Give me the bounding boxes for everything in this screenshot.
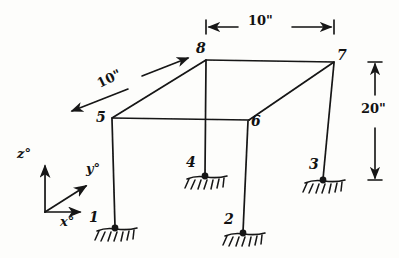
dimension-height bbox=[368, 62, 382, 180]
support-node-4 bbox=[185, 173, 227, 189]
node-label-6: 6 bbox=[251, 114, 261, 128]
member-column-7-3 bbox=[323, 63, 334, 179]
figure-canvas: 1 2 3 4 5 6 7 8 10" 10" 20" z° y° x° bbox=[0, 0, 399, 258]
axis-label-z: z° bbox=[17, 147, 31, 160]
member-roof-6-7 bbox=[249, 62, 334, 120]
node-label-7: 7 bbox=[337, 48, 347, 62]
support-node-3 bbox=[303, 177, 345, 193]
node-label-3: 3 bbox=[309, 157, 319, 171]
support-node-2 bbox=[223, 230, 265, 246]
node-label-5: 5 bbox=[96, 110, 106, 124]
coordinate-axes bbox=[45, 166, 86, 212]
axis-line-y bbox=[45, 186, 86, 212]
dimension-diagonal-depth bbox=[72, 58, 188, 111]
dimension-label-height: 20" bbox=[361, 102, 386, 115]
node-label-4: 4 bbox=[186, 155, 196, 169]
node-label-2: 2 bbox=[224, 212, 234, 226]
roof-members bbox=[112, 60, 334, 120]
member-column-5-1 bbox=[112, 119, 115, 227]
node-label-8: 8 bbox=[196, 41, 206, 55]
node-label-1: 1 bbox=[89, 210, 99, 224]
member-roof-7-8 bbox=[206, 60, 334, 62]
dimension-label-top-width: 10" bbox=[248, 14, 273, 27]
axis-label-x: x° bbox=[60, 215, 74, 228]
support-node-1 bbox=[95, 225, 137, 241]
member-column-6-2 bbox=[243, 121, 248, 232]
axis-label-y: y° bbox=[86, 162, 100, 175]
member-column-8-4 bbox=[205, 61, 206, 175]
column-members bbox=[112, 61, 334, 232]
member-roof-5-6 bbox=[112, 118, 249, 120]
